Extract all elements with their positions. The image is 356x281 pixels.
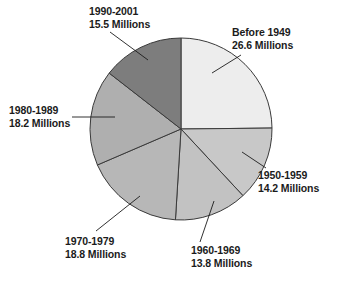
pie-label-value: 13.8 Millions: [191, 257, 252, 270]
pie-label-before-1949: Before 1949 26.6 Millions: [232, 26, 293, 51]
pie-label-category: 1950-1959: [258, 169, 319, 182]
leader-line-1970-1979: [96, 196, 140, 231]
pie-label-value: 18.8 Millions: [65, 248, 126, 261]
pie-slice-group: [90, 38, 272, 220]
pie-label-1960-1969: 1960-1969 13.8 Millions: [191, 244, 252, 269]
pie-label-1970-1979: 1970-1979 18.8 Millions: [65, 235, 126, 260]
pie-label-value: 18.2 Millions: [9, 117, 70, 130]
pie-label-1980-1989: 1980-1989 18.2 Millions: [9, 104, 70, 129]
pie-chart: Before 1949 26.6 Millions 1950-1959 14.2…: [0, 0, 356, 281]
pie-label-value: 14.2 Millions: [258, 182, 319, 195]
pie-label-category: 1990-2001: [89, 5, 150, 18]
pie-chart-canvas: [0, 0, 356, 281]
pie-label-value: 15.5 Millions: [89, 18, 150, 31]
pie-slice-before-1949: [181, 38, 272, 129]
pie-label-category: 1970-1979: [65, 235, 126, 248]
pie-label-1990-2001: 1990-2001 15.5 Millions: [89, 5, 150, 30]
pie-label-value: 26.6 Millions: [232, 39, 293, 52]
pie-label-category: 1980-1989: [9, 104, 70, 117]
pie-label-1950-1959: 1950-1959 14.2 Millions: [258, 169, 319, 194]
pie-label-category: 1960-1969: [191, 244, 252, 257]
pie-label-category: Before 1949: [232, 26, 293, 39]
